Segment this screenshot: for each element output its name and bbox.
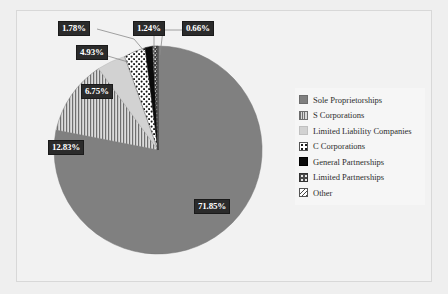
legend-label-s-corporations: S Corporations <box>313 110 364 120</box>
legend-label-c-corporations: C Corporations <box>313 141 365 151</box>
pie-chart-figure: 1.78% 1.24% 0.66% 4.93% 6.75% 12.83% 71.… <box>0 0 448 294</box>
legend-item-other: Other <box>299 185 423 201</box>
legend-item-limited-liability-companies: Limited Liability Companies <box>299 123 423 139</box>
solid-gray-swatch-icon <box>299 95 308 104</box>
data-label-sole-proprietorships: 71.85% <box>194 199 230 214</box>
white-dotted-swatch-icon <box>299 142 308 151</box>
legend-label-limited-partnerships: Limited Partnerships <box>313 172 384 182</box>
chart-legend: Sole Proprietorships S Corporations Limi… <box>295 88 425 205</box>
legend-label-general-partnerships: General Partnerships <box>313 157 384 167</box>
data-label-c-corporations: 4.93% <box>76 45 108 60</box>
legend-label-limited-liability-companies: Limited Liability Companies <box>313 126 412 136</box>
data-label-limited-liability-companies: 6.75% <box>81 84 113 99</box>
legend-label-sole-proprietorships: Sole Proprietorships <box>313 95 382 105</box>
data-label-general-partnerships: 1.78% <box>58 21 90 36</box>
legend-item-sole-proprietorships: Sole Proprietorships <box>299 92 423 108</box>
dark-dotted-swatch-icon <box>299 173 308 182</box>
legend-label-other: Other <box>313 188 332 198</box>
light-gray-swatch-icon <box>299 126 308 135</box>
legend-item-c-corporations: C Corporations <box>299 139 423 155</box>
legend-item-general-partnerships: General Partnerships <box>299 154 423 170</box>
data-label-limited-partnerships: 1.24% <box>133 21 165 36</box>
hatched-swatch-icon <box>299 188 308 197</box>
legend-item-s-corporations: S Corporations <box>299 108 423 124</box>
data-label-s-corporations: 12.83% <box>48 140 84 155</box>
legend-item-limited-partnerships: Limited Partnerships <box>299 170 423 186</box>
data-label-other: 0.66% <box>182 21 214 36</box>
black-swatch-icon <box>299 157 308 166</box>
vertical-stripe-swatch-icon <box>299 111 308 120</box>
